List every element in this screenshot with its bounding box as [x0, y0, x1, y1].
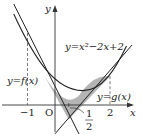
y-axis-arrow-icon [53, 5, 58, 12]
tangent-g-label: y=g(x) [96, 91, 131, 102]
tangent-f-label: y=f(x) [6, 75, 38, 86]
half-numerator: 1 [86, 108, 92, 119]
tangent-line-g [55, 45, 132, 134]
half-denominator: 2 [86, 121, 92, 132]
x-axis-label: x [130, 107, 136, 118]
graph-canvas: y x O −1 2 1 2 y=x²−2x+2 y=f(x) y=g(x) [0, 0, 143, 140]
y-axis-label: y [44, 3, 51, 14]
origin-label: O [45, 107, 53, 118]
tick-label-neg1: −1 [20, 107, 35, 118]
parabola-label: y=x²−2x+2 [64, 41, 124, 52]
tick-label-2: 2 [107, 107, 113, 118]
